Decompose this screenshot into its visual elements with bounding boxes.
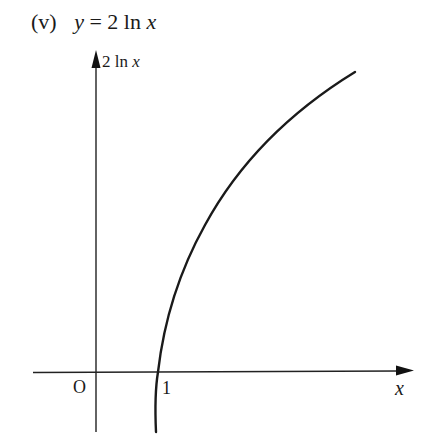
- log-curve: [155, 72, 355, 432]
- x-axis-arrow-icon: [396, 366, 414, 376]
- x-axis: [33, 371, 398, 373]
- y-label-coef: 2 ln: [102, 52, 128, 71]
- origin-label: O: [73, 377, 86, 398]
- plot-area: [0, 0, 429, 441]
- y-axis-label: 2 ln x: [102, 52, 140, 72]
- x-intercept-label: 1: [162, 378, 171, 399]
- x-axis-label: x: [395, 377, 404, 400]
- y-label-var: x: [132, 52, 140, 71]
- y-axis-arrow-icon: [92, 50, 101, 68]
